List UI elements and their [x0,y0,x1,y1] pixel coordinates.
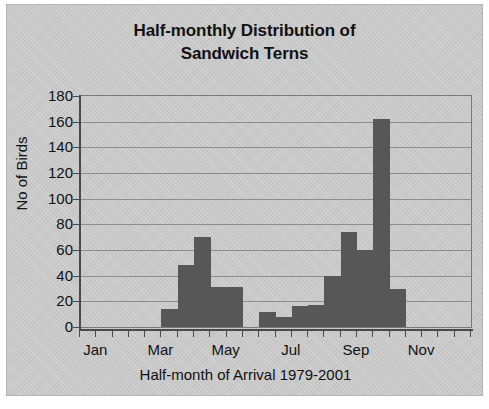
x-axis-tick [389,331,390,337]
x-axis-tick-label: May [196,341,256,358]
y-axis-tick-label: 160 [33,115,73,129]
x-axis-tick-label: Jan [65,341,125,358]
y-axis-tick-label: 20 [33,294,73,308]
x-axis-tick [356,331,357,337]
x-axis-tick [209,331,210,337]
chart-title-line1: Half-monthly Distribution of [134,21,356,40]
bar [292,306,309,327]
x-axis-tick [323,331,324,337]
y-axis-tick-label: 140 [33,140,73,154]
x-axis-tick [160,331,161,337]
x-axis-tick [275,331,276,337]
x-axis-tick [242,331,243,337]
y-axis-tick [73,276,80,277]
bar [210,287,227,327]
x-axis-tick [226,331,227,337]
x-axis-tick-label: Sep [326,341,386,358]
y-axis-tick-label: 60 [33,243,73,257]
y-axis-tick [73,301,80,302]
chart-card: Half-monthly Distribution ofSandwich Ter… [6,4,483,396]
bar [227,287,244,327]
screenshot-root: Half-monthly Distribution ofSandwich Ter… [0,0,489,409]
y-axis-tick-labels: 180160140120100806040200 [27,5,73,397]
y-axis-tick-label: 100 [33,192,73,206]
x-axis-tick [454,331,455,337]
x-axis-tick-label: Jul [261,341,321,358]
y-axis-line [79,95,81,329]
y-axis-tick-label: 0 [33,320,73,334]
x-axis-tick [340,331,341,337]
x-axis-tick [470,331,471,337]
x-axis-tick-label: Mar [130,341,190,358]
x-axis-tick [79,331,80,337]
plot-area [79,95,472,328]
x-axis-tick [95,331,96,337]
bar [161,309,178,327]
y-axis-tick-label: 180 [33,89,73,103]
bar [178,265,195,327]
bar [357,250,374,327]
x-axis-tick-label: Nov [391,341,451,358]
y-axis-tick [73,173,80,174]
x-axis-tick [128,331,129,337]
bar [390,289,407,328]
x-axis-tick [291,331,292,337]
x-axis-tick [405,331,406,337]
y-axis-tick [73,327,80,328]
chart-title-line2: Sandwich Terns [181,44,309,63]
x-axis-tick [307,331,308,337]
x-axis-tick [421,331,422,337]
x-axis-tick [193,331,194,337]
bar [276,317,293,327]
y-axis-tick [73,96,80,97]
x-axis-line [79,329,473,331]
x-axis-tick [437,331,438,337]
y-axis-tick [73,224,80,225]
chart-title: Half-monthly Distribution ofSandwich Ter… [7,19,482,65]
x-axis-tick [144,331,145,337]
y-axis-tick-label: 120 [33,166,73,180]
y-axis-tick [73,199,80,200]
y-axis-tick-label: 40 [33,269,73,283]
bar [341,232,358,327]
bar [259,312,276,327]
y-axis-tick-label: 80 [33,217,73,231]
y-axis-title: No of Birds [13,104,30,244]
y-axis-tick [73,122,80,123]
bar [194,237,211,327]
bar [324,276,341,327]
bar [308,305,325,327]
x-axis-tick [112,331,113,337]
bar-series [80,96,471,327]
x-axis-tick [177,331,178,337]
y-axis-tick [73,250,80,251]
y-axis-tick [73,147,80,148]
bar [373,119,390,327]
x-axis-title: Half-month of Arrival 1979-2001 [7,366,484,383]
x-axis-tick [258,331,259,337]
x-axis-tick [372,331,373,337]
